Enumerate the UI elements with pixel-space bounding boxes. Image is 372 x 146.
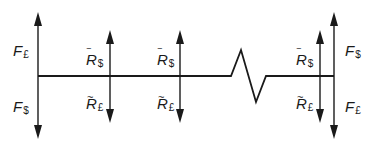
label-right-bottom: F£ <box>345 99 361 116</box>
label-inner1-bottom: ~R£ <box>86 96 103 113</box>
label-left-bottom: F$ <box>13 99 29 116</box>
cash-flow-diagram: F£ F$ ‾R$ ~R£ ‾R$ ~R£ ‾R$ ~R£ F$ F£ <box>0 0 372 146</box>
label-left-top: F£ <box>13 43 29 60</box>
label-right-top: F$ <box>345 43 361 60</box>
label-inner2-bottom: ~R£ <box>157 96 174 113</box>
label-inner1-top: ‾R$ <box>86 52 103 69</box>
label-inner2-top: ‾R$ <box>157 52 174 69</box>
diagram-lines <box>0 0 372 146</box>
label-inner3-top: ‾R$ <box>296 52 313 69</box>
label-inner3-bottom: ~R£ <box>296 96 313 113</box>
timeline-axis <box>38 50 334 102</box>
